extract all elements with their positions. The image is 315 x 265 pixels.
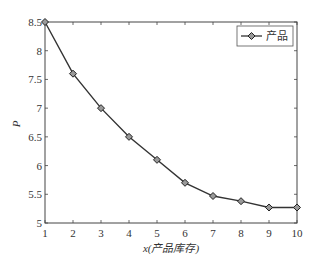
plot-frame (45, 22, 297, 223)
y-tick-label: 6 (37, 160, 43, 172)
legend: 产品 (237, 26, 293, 46)
y-axis-label: P (10, 120, 22, 128)
diamond-marker-icon (210, 193, 217, 200)
diamond-marker-icon (42, 19, 49, 26)
diamond-marker-icon (294, 204, 301, 211)
x-tick-label: 1 (42, 227, 48, 239)
y-tick-label: 7.5 (28, 73, 42, 85)
diamond-marker-icon (238, 198, 245, 205)
x-tick-label: 3 (98, 227, 104, 239)
diamond-marker-icon (266, 204, 273, 211)
x-tick-label: 2 (70, 227, 76, 239)
y-tick-label: 8 (37, 45, 43, 57)
series-line (45, 22, 297, 207)
x-tick-label: 5 (154, 227, 160, 239)
y-tick-label: 6.5 (28, 131, 42, 143)
plot-border (45, 22, 297, 223)
x-axis-label: x(产品库存) (142, 242, 200, 255)
x-tick-label: 9 (266, 227, 272, 239)
data-series (42, 19, 301, 211)
y-tick-label: 5.5 (28, 188, 42, 200)
y-tick-label: 8.5 (28, 16, 42, 28)
y-tick-label: 7 (37, 102, 43, 114)
line-chart: 55.566.577.588.5 12345678910 x(产品库存) P 产… (0, 0, 315, 265)
legend-label: 产品 (266, 29, 288, 42)
y-axis-ticks: 55.566.577.588.5 (28, 16, 297, 229)
x-tick-label: 6 (182, 227, 188, 239)
x-tick-label: 7 (210, 227, 216, 239)
x-tick-label: 10 (292, 227, 304, 239)
x-tick-label: 4 (126, 227, 132, 239)
x-tick-label: 8 (238, 227, 244, 239)
